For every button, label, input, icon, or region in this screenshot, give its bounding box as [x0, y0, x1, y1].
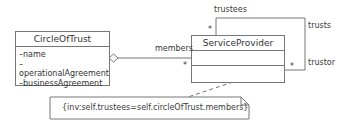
trustor-role-label: trustor [308, 58, 335, 68]
trustor-multiplicity: * [290, 62, 294, 72]
attribute: –businessAgreement [19, 79, 106, 89]
members-multiplicity: * [183, 61, 187, 71]
aggregation-diamond-icon [109, 54, 118, 62]
note-anchor-line [188, 82, 233, 97]
ocl-constraint-note: {inv:self.trustees=self.circleOfTrust.me… [62, 103, 248, 113]
operation-section [192, 66, 284, 82]
attribute: –operationalAgreement [19, 60, 106, 79]
attribute-list: –name –operationalAgreement –businessAgr… [16, 47, 109, 91]
class-circle-of-trust[interactable]: CircleOfTrust –name –operationalAgreemen… [15, 31, 110, 86]
attribute-section [192, 51, 284, 66]
class-name: CircleOfTrust [16, 32, 109, 47]
attribute: –name [19, 50, 106, 60]
class-name: ServiceProvider [192, 36, 284, 51]
class-service-provider[interactable]: ServiceProvider [191, 35, 285, 83]
trustees-role-label: trustees [214, 5, 247, 15]
trustees-multiplicity: * [208, 25, 212, 35]
members-role-label: members [155, 44, 193, 54]
trusts-association-label: trusts [308, 21, 331, 31]
